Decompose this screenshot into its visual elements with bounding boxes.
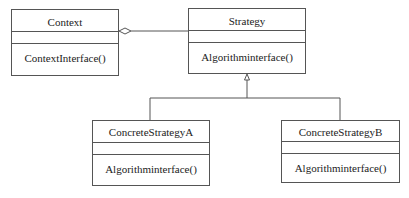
attributes-divider xyxy=(12,31,118,32)
operation: Algorithminterface() xyxy=(93,163,209,176)
operations-divider xyxy=(189,42,305,43)
class-name: ConcreteStrategyA xyxy=(93,126,209,139)
attributes-divider xyxy=(189,30,305,31)
class-name: ConcreteStrategyB xyxy=(282,126,399,139)
aggregation-connector xyxy=(119,28,188,34)
operations-divider xyxy=(12,43,118,44)
aggregation-diamond-icon xyxy=(119,28,131,34)
operations-divider xyxy=(93,154,209,155)
inheritance-triangle-icon xyxy=(245,74,250,80)
class-strategy: Strategy Algorithminterface() xyxy=(188,8,306,74)
operation: Algorithminterface() xyxy=(189,51,305,64)
operations-divider xyxy=(282,153,399,154)
generalization-connector xyxy=(150,74,340,120)
class-concrete-strategy-b: ConcreteStrategyB Algorithminterface() xyxy=(281,120,400,183)
class-context: Context ContextInterface() xyxy=(11,9,119,76)
class-concrete-strategy-a: ConcreteStrategyA Algorithminterface() xyxy=(92,120,210,186)
attributes-divider xyxy=(93,142,209,143)
operation: Algorithminterface() xyxy=(282,162,399,175)
operation: ContextInterface() xyxy=(12,52,118,65)
class-name: Context xyxy=(12,16,118,29)
class-name: Strategy xyxy=(189,15,305,28)
attributes-divider xyxy=(282,141,399,142)
